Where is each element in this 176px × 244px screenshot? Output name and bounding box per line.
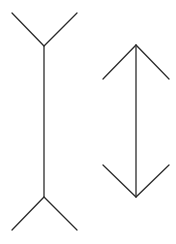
muller-lyer-diagram <box>0 0 176 244</box>
fins-out-bottom-fin <box>12 197 77 230</box>
fins-out-figure <box>12 13 77 230</box>
fins-out-top-fin <box>12 13 77 46</box>
arrows-in-figure <box>103 45 169 197</box>
